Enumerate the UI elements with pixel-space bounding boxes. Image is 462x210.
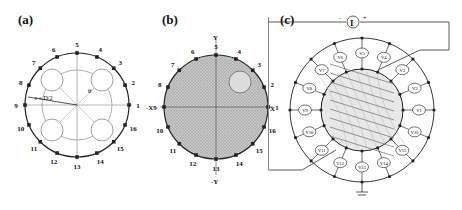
- electrode: [27, 123, 31, 127]
- current-source-label: I: [350, 18, 354, 28]
- panel-a: (a) r = D/2 θ 12345678910111213141516: [14, 12, 140, 171]
- electrode: [38, 140, 42, 144]
- electrode: [376, 71, 379, 74]
- electrode: [376, 146, 379, 149]
- electrode-label: 12: [189, 160, 197, 168]
- electrode: [123, 123, 127, 127]
- node: [388, 175, 391, 178]
- y-neg-label: -Y: [211, 178, 218, 186]
- electrode: [75, 51, 79, 55]
- electrode: [123, 83, 127, 87]
- node: [309, 159, 312, 162]
- electrode: [75, 155, 79, 159]
- electrode-label: 7: [32, 59, 36, 67]
- electrode-label: 6: [191, 48, 195, 56]
- inclusion-1: [41, 69, 63, 91]
- electrode-label: 3: [257, 61, 261, 69]
- voltmeter-label: V3: [400, 68, 406, 73]
- voltmeter-label: V14: [380, 161, 388, 166]
- electrode-label: 14: [97, 158, 105, 166]
- inclusion-2: [91, 69, 113, 91]
- electrode-label: 1: [136, 102, 140, 110]
- electrode-label: 16: [130, 125, 138, 133]
- radius-label: r = D/2: [35, 95, 52, 101]
- electrode: [27, 83, 31, 87]
- voltmeter-label: V12: [336, 161, 344, 166]
- voltmeter-label: V10: [305, 130, 313, 135]
- electrode: [214, 157, 218, 161]
- voltmeter-label: V2: [412, 86, 418, 91]
- electrode-label: 6: [52, 46, 56, 54]
- node: [427, 136, 430, 139]
- node: [427, 81, 430, 84]
- y-pos-label: Y: [213, 34, 218, 42]
- electrode: [401, 108, 404, 111]
- voltmeter-label: V13: [358, 165, 366, 170]
- electrode: [194, 153, 198, 157]
- electrode: [166, 85, 170, 89]
- electrode: [38, 66, 42, 70]
- electrode: [262, 125, 266, 129]
- electrode-label: 10: [17, 125, 25, 133]
- voltmeter-label: V8: [307, 86, 313, 91]
- electrode-label: 11: [170, 147, 177, 155]
- panel-b: (b) Y -Y -X 12345678910111213141516: [146, 12, 279, 186]
- source-wire-right: [360, 22, 449, 70]
- electrode-label: 8: [158, 81, 162, 89]
- node: [411, 159, 414, 162]
- plus-label: +: [363, 15, 367, 21]
- panel-a-label: (a): [18, 12, 33, 27]
- inclusion-3: [41, 119, 63, 141]
- node: [294, 81, 297, 84]
- electrode-label: 5: [214, 43, 218, 51]
- minus-label: −: [338, 15, 342, 21]
- voltmeter-label: V1: [416, 108, 422, 113]
- voltmeter-label: V5: [359, 51, 365, 56]
- electrode: [234, 153, 238, 157]
- voltmeter-label: V7: [319, 68, 325, 73]
- electrode: [389, 79, 392, 82]
- electrode-label: 15: [256, 147, 264, 155]
- node: [360, 36, 363, 39]
- panel-c: (c) X I − + V1V2V3V4V5V6V7V8V9V10V11V12V…: [268, 12, 449, 195]
- mesh-inclusion: [229, 71, 251, 93]
- electrode: [331, 137, 334, 140]
- electrode-label: 9: [153, 104, 157, 112]
- voltmeter-label: V16: [411, 130, 419, 135]
- electrode: [55, 55, 59, 59]
- electrode-label: 10: [156, 127, 164, 135]
- electrode-label: 9: [14, 102, 18, 110]
- electrode-label: 5: [75, 41, 79, 49]
- electrode-label: 4: [238, 48, 242, 56]
- voltmeter-label: V6: [337, 55, 343, 60]
- electrode: [319, 108, 322, 111]
- node: [432, 108, 435, 111]
- electrode: [112, 66, 116, 70]
- electrode: [389, 137, 392, 140]
- electrode-label: 7: [171, 61, 175, 69]
- voltmeter-label: V9: [302, 108, 308, 113]
- x-label-c: X: [270, 105, 275, 113]
- figure: (a) r = D/2 θ 12345678910111213141516 (b…: [0, 0, 462, 210]
- electrode: [331, 79, 334, 82]
- voltmeter-label: V11: [318, 148, 326, 153]
- node: [333, 175, 336, 178]
- electrode: [398, 93, 401, 96]
- node: [309, 57, 312, 60]
- electrode-label: 1: [275, 104, 279, 112]
- electrode: [323, 93, 326, 96]
- electrode: [95, 55, 99, 59]
- panel-b-label: (b): [162, 12, 178, 27]
- electrode: [55, 151, 59, 155]
- electrode-label: 4: [99, 46, 103, 54]
- voltmeter-label: V4: [381, 55, 387, 60]
- electrode: [23, 103, 27, 107]
- voltmeter-label: V15: [398, 148, 406, 153]
- node: [411, 57, 414, 60]
- frame-left: [268, 17, 269, 169]
- electrode-label: 15: [117, 145, 125, 153]
- electrode-label: 11: [31, 145, 38, 153]
- electrode: [323, 124, 326, 127]
- electrode-label: 2: [271, 81, 275, 89]
- electrode: [214, 53, 218, 57]
